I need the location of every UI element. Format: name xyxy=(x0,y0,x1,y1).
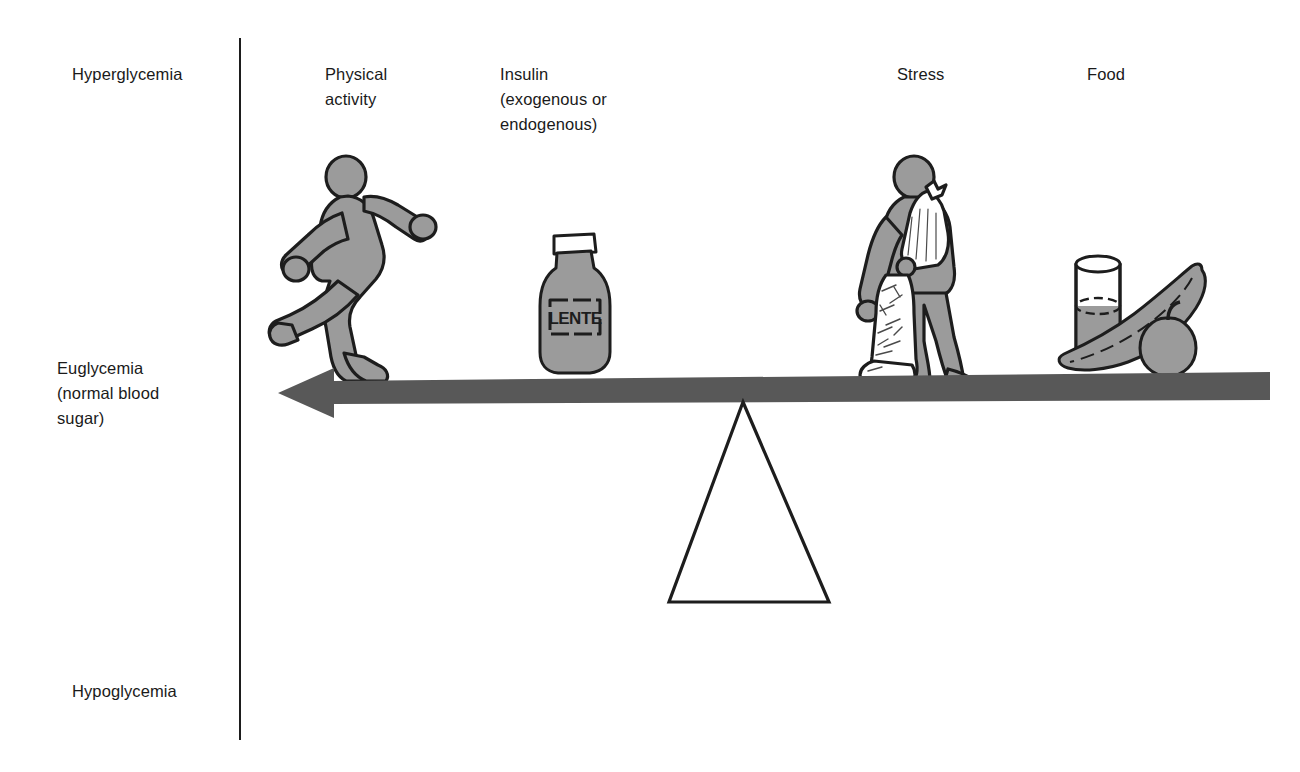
food-glass-banana-apple-icon xyxy=(1052,248,1212,378)
diagram-canvas: Hyperglycemia Euglycemia (normal blood s… xyxy=(0,0,1300,772)
blood-glucose-axis-line xyxy=(239,38,241,740)
axis-label-hyperglycemia: Hyperglycemia xyxy=(72,62,182,87)
insulin-bottle-label: LENTE xyxy=(548,309,601,328)
factor-label-insulin: Insulin (exogenous or endogenous) xyxy=(500,62,607,137)
insulin-bottle-icon: LENTE xyxy=(524,228,624,378)
running-person-icon xyxy=(268,155,436,383)
factor-label-physical-activity: Physical activity xyxy=(325,62,387,112)
injured-person-icon xyxy=(856,155,988,383)
axis-label-hypoglycemia: Hypoglycemia xyxy=(72,679,177,704)
axis-label-euglycemia: Euglycemia (normal blood sugar) xyxy=(57,356,159,431)
fulcrum-triangle xyxy=(655,396,845,610)
factor-label-food: Food xyxy=(1087,62,1125,87)
factor-label-stress: Stress xyxy=(897,62,944,87)
